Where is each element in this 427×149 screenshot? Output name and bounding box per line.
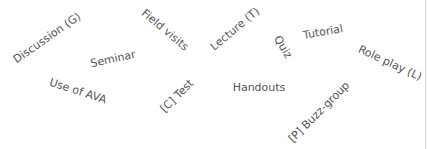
word-field-visits: Field visits	[140, 7, 191, 52]
word-buzz-group: [P] Buzz-group	[287, 80, 352, 145]
word-discussion: Discussion (G)	[11, 11, 82, 65]
word-quiz: Quiz	[272, 34, 294, 61]
word-tutorial: Tutorial	[302, 23, 344, 41]
word-cloud: Discussion (G) Seminar Field visits Lect…	[0, 0, 426, 149]
word-seminar: Seminar	[89, 49, 136, 69]
word-role-play: Role play (L)	[357, 43, 424, 82]
word-handouts: Handouts	[233, 82, 286, 93]
word-test: [C] Test	[158, 77, 195, 114]
word-use-of-ava: Use of AVA	[48, 77, 108, 106]
word-lecture: Lecture (T)	[209, 6, 262, 53]
